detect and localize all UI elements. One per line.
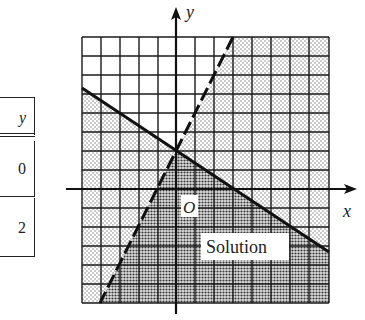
inequality-graph: O Solution y x [0,0,365,320]
x-axis-label: x [342,201,351,221]
solution-label: Solution [206,237,267,257]
y-axis-label: y [184,2,194,22]
origin-label: O [183,198,195,217]
